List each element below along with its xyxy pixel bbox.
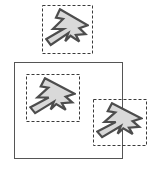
diagram-root	[0, 0, 160, 169]
shape-bounding-box-diagram	[0, 0, 160, 169]
